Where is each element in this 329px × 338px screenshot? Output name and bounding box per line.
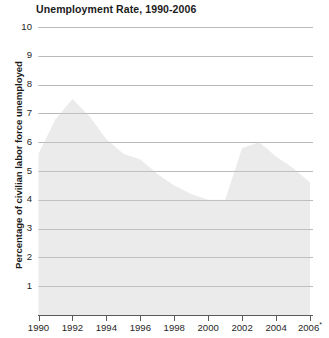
y-tick-label-5: 5 — [10, 166, 32, 176]
y-tick-label-3: 3 — [10, 223, 32, 233]
y-tick-label-6: 6 — [10, 137, 32, 147]
y-tick-label-2: 2 — [10, 252, 32, 262]
unemployment-area-series — [39, 99, 311, 315]
y-tick-label-7: 7 — [10, 108, 32, 118]
unemployment-rate-chart: Unemployment Rate, 1990-2006 Percentage … — [0, 0, 329, 338]
x-tick-label-2006: 2006* — [290, 322, 329, 333]
y-tick-label-4: 4 — [10, 194, 32, 204]
y-tick-label-1: 1 — [10, 281, 32, 291]
y-tick-label-10: 10 — [10, 22, 32, 32]
y-tick-label-9: 9 — [10, 50, 32, 60]
plot-area — [0, 0, 329, 338]
x-axis-tick-marks — [40, 316, 311, 321]
y-tick-label-8: 8 — [10, 79, 32, 89]
